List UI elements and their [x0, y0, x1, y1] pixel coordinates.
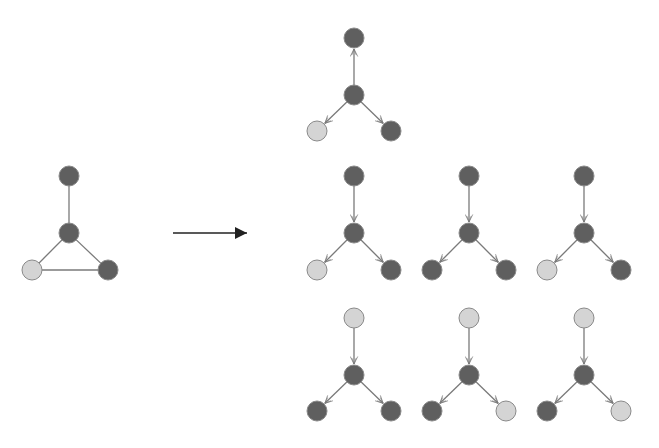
node-center	[459, 223, 479, 243]
output-directed-graphs	[307, 28, 631, 421]
node-top	[344, 28, 364, 48]
node-bottom-left	[537, 401, 557, 421]
node-bottom-left	[307, 401, 327, 421]
node-bottom-left	[537, 260, 557, 280]
node-bottom-right	[611, 260, 631, 280]
directed-graph-6	[422, 308, 516, 421]
node-top	[574, 166, 594, 186]
node-top	[344, 166, 364, 186]
node-top	[459, 308, 479, 328]
node-top	[459, 166, 479, 186]
undirected-edge	[39, 240, 62, 263]
node-bottom-right	[496, 260, 516, 280]
directed-graph-4	[537, 166, 631, 280]
node-bottom-right	[381, 401, 401, 421]
directed-edge-left	[325, 102, 347, 123]
directed-edge-right	[476, 382, 498, 403]
node-bottom-right	[496, 401, 516, 421]
directed-graph-7	[537, 308, 631, 421]
directed-graph-5	[307, 308, 401, 421]
directed-graph-1	[307, 28, 401, 141]
directed-edge-left	[555, 382, 577, 403]
directed-edge-left	[325, 382, 347, 403]
directed-edge-right	[361, 102, 383, 123]
directed-edge-right	[476, 240, 498, 262]
directed-edge-right	[361, 382, 383, 403]
node-center	[59, 223, 79, 243]
node-top	[344, 308, 364, 328]
directed-graph-3	[422, 166, 516, 280]
undirected-edge	[76, 240, 100, 263]
node-bottom-left	[422, 401, 442, 421]
directed-edge-right	[591, 382, 613, 403]
node-bottom-right	[611, 401, 631, 421]
node-center	[344, 223, 364, 243]
directed-edge-right	[591, 240, 613, 262]
directed-edge-left	[440, 382, 462, 403]
node-bottom-right	[381, 121, 401, 141]
directed-edge-left	[555, 240, 577, 262]
input-undirected-graph	[22, 166, 118, 280]
node-center	[459, 365, 479, 385]
node-bottom-right	[381, 260, 401, 280]
directed-edge-left	[440, 240, 462, 262]
diagram-canvas	[0, 0, 659, 448]
node-center	[344, 365, 364, 385]
node-bottom-left	[422, 260, 442, 280]
directed-edge-right	[361, 240, 383, 262]
node-bottom-right	[98, 260, 118, 280]
node-center	[574, 365, 594, 385]
directed-edge-left	[325, 240, 347, 262]
node-bottom-left	[22, 260, 42, 280]
node-bottom-left	[307, 121, 327, 141]
node-center	[574, 223, 594, 243]
node-center	[344, 85, 364, 105]
node-bottom-left	[307, 260, 327, 280]
directed-graph-2	[307, 166, 401, 280]
node-top	[59, 166, 79, 186]
node-top	[574, 308, 594, 328]
